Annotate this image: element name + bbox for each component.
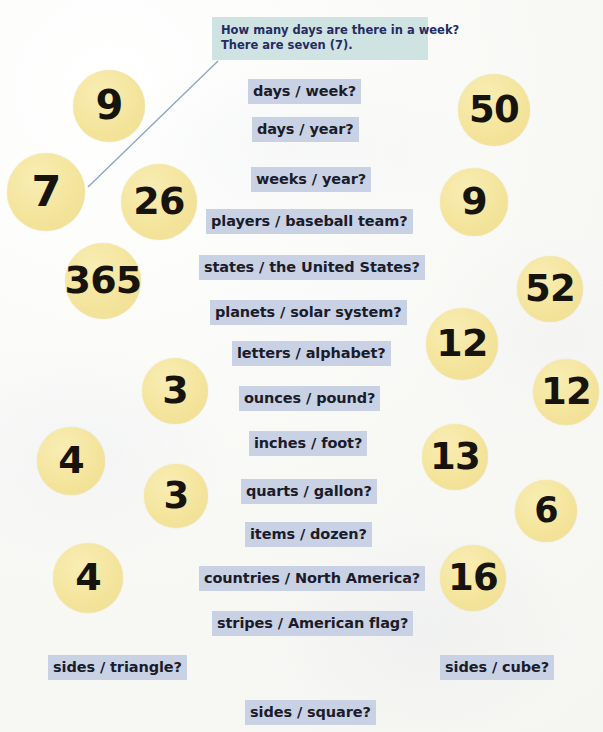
question-label-inches-foot[interactable]: inches / foot? <box>249 431 367 456</box>
question-label-days-week[interactable]: days / week? <box>248 79 361 104</box>
question-label-items-dozen[interactable]: items / dozen? <box>245 522 372 547</box>
answer-bubble-value: 3 <box>162 368 188 412</box>
question-label-ounces-pound[interactable]: ounces / pound? <box>239 386 380 411</box>
answer-bubble[interactable]: 4 <box>53 543 123 613</box>
answer-bubble-value: 13 <box>430 435 480 478</box>
question-label-stripes-american-flag[interactable]: stripes / American flag? <box>212 611 413 636</box>
answer-bubble-value: 52 <box>525 267 575 310</box>
answer-bubble-value: 3 <box>163 474 188 517</box>
answer-bubble[interactable]: 50 <box>458 74 530 146</box>
answer-bubble[interactable]: 3 <box>144 464 208 528</box>
answer-bubble[interactable]: 52 <box>517 256 583 322</box>
answer-bubble[interactable]: 4 <box>37 427 105 495</box>
answer-bubble-value: 365 <box>64 258 141 302</box>
question-label-days-year[interactable]: days / year? <box>252 117 359 142</box>
answer-bubble-value: 16 <box>448 556 498 599</box>
question-label-sides-square[interactable]: sides / square? <box>245 700 376 725</box>
question-label-states-the-united-states[interactable]: states / the United States? <box>199 255 425 280</box>
question-label-sides-triangle[interactable]: sides / triangle? <box>48 655 187 680</box>
question-label-quarts-gallon[interactable]: quarts / gallon? <box>241 479 377 504</box>
question-label-sides-cube[interactable]: sides / cube? <box>440 655 554 680</box>
answer-bubble[interactable]: 9 <box>73 70 145 142</box>
question-label-players-baseball-team[interactable]: players / baseball team? <box>206 209 413 234</box>
answer-bubble-value: 50 <box>469 88 519 131</box>
answer-bubble-value: 9 <box>95 82 122 128</box>
answer-bubble-value: 26 <box>133 179 184 223</box>
answer-bubble[interactable]: 9 <box>440 168 508 236</box>
answer-bubble[interactable]: 6 <box>515 480 577 542</box>
answer-bubble[interactable]: 13 <box>422 424 488 490</box>
answer-bubble[interactable]: 26 <box>121 164 197 240</box>
answer-bubble[interactable]: 12 <box>533 359 599 425</box>
answer-bubble-value: 6 <box>534 490 558 530</box>
question-label-countries-north-america[interactable]: countries / North America? <box>199 566 425 591</box>
answer-bubble-value: 9 <box>461 179 487 223</box>
question-label-weeks-year[interactable]: weeks / year? <box>251 167 371 192</box>
answer-bubble[interactable]: 365 <box>65 243 141 319</box>
answer-bubble[interactable]: 16 <box>440 545 506 611</box>
answer-bubble[interactable]: 7 <box>7 153 85 231</box>
answer-bubble[interactable]: 12 <box>426 308 498 380</box>
callout-line-1: How many days are there in a week? <box>221 23 421 38</box>
worksheet-page: How many days are there in a week? There… <box>0 0 603 732</box>
answer-bubble-value: 4 <box>75 555 101 599</box>
answer-bubble-value: 12 <box>436 321 487 365</box>
answer-bubble[interactable]: 3 <box>142 358 208 424</box>
example-callout: How many days are there in a week? There… <box>212 17 428 60</box>
callout-line-2: There are seven (7). <box>221 38 421 53</box>
question-label-planets-solar-system[interactable]: planets / solar system? <box>210 300 407 325</box>
answer-bubble-value: 12 <box>541 370 591 413</box>
answer-bubble-value: 7 <box>31 166 60 216</box>
question-label-letters-alphabet[interactable]: letters / alphabet? <box>232 341 391 366</box>
answer-bubble-value: 4 <box>58 438 84 482</box>
